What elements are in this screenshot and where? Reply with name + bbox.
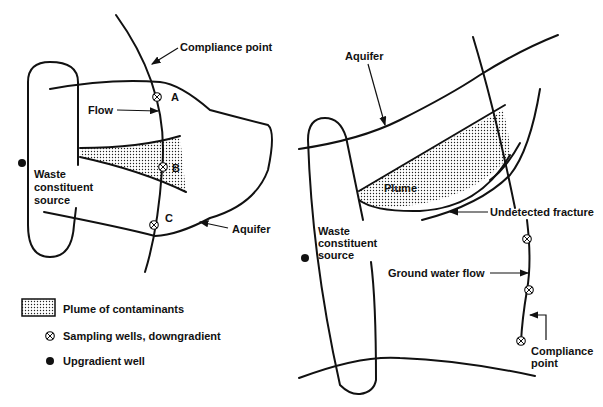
legend-plume-label: Plume of contaminants — [63, 303, 184, 315]
right-well-3-icon — [517, 337, 526, 346]
legend: Plume of contaminants Sampling wells, do… — [22, 299, 221, 367]
left-diagram: Compliance point Flow A B C Aquifer Wast… — [18, 15, 273, 272]
plume-legend-swatch — [22, 299, 55, 316]
left-waste-source-outline — [28, 62, 78, 257]
right-fracture-label: Undetected fracture — [490, 206, 594, 218]
legend-upgradient-well-icon — [46, 357, 54, 365]
well-b-icon — [159, 163, 168, 172]
left-upgradient-well-icon — [18, 159, 26, 167]
right-gw-flow-label: Ground water flow — [388, 267, 485, 279]
well-c-label: C — [165, 212, 173, 224]
well-b-label: B — [172, 162, 180, 174]
left-aquifer-label: Aquifer — [232, 223, 271, 235]
groundwater-monitoring-diagram: Compliance point Flow A B C Aquifer Wast… — [0, 0, 603, 407]
right-plume-label: Plume — [384, 182, 417, 194]
right-well-2-icon — [525, 286, 534, 295]
right-aquifer-label: Aquifer — [345, 50, 384, 62]
left-source-label-3: source — [34, 194, 70, 206]
right-source-label-3: source — [318, 249, 354, 261]
right-compliance-label-2: point — [531, 357, 558, 369]
left-source-label-1: Waste — [34, 168, 66, 180]
left-flow-label: Flow — [88, 104, 113, 116]
right-well-1-icon — [523, 235, 532, 244]
well-a-label: A — [171, 91, 179, 103]
legend-upgradient-label: Upgradient well — [63, 355, 145, 367]
right-source-label-2: constituent — [318, 237, 378, 249]
left-compliance-label: Compliance point — [180, 41, 273, 53]
legend-sampling-label: Sampling wells, downgradient — [63, 330, 221, 342]
right-aquifer-top — [299, 35, 558, 149]
well-a-icon — [153, 93, 162, 102]
legend-sampling-well-icon — [46, 332, 55, 341]
right-compliance-label-1: Compliance — [531, 345, 593, 357]
right-source-label-1: Waste — [318, 225, 350, 237]
left-source-label-2: constituent — [34, 181, 94, 193]
well-c-icon — [150, 221, 159, 230]
right-upgradient-well-icon — [301, 254, 309, 262]
right-diagram: Aquifer Plume Undetected fracture Waste … — [299, 35, 594, 394]
